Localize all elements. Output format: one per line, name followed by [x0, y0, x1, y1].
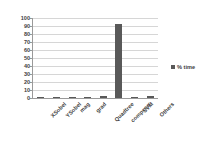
- bar: [37, 97, 44, 98]
- y-tick-label: 80: [24, 31, 30, 37]
- bar: [131, 97, 138, 98]
- bar: [115, 24, 122, 98]
- bar: [84, 97, 91, 98]
- y-tick-label: 40: [24, 63, 30, 69]
- y-tick-label: 90: [24, 23, 30, 29]
- y-tick-label: 0: [27, 95, 30, 101]
- y-tick-label: 30: [24, 71, 30, 77]
- legend-item-label: % time: [177, 64, 195, 70]
- bar: [147, 96, 154, 98]
- y-tick-label: 60: [24, 47, 30, 53]
- bar-series-pct-time: [33, 18, 158, 98]
- y-tick-label: 20: [24, 79, 30, 85]
- y-tick-label: 70: [24, 39, 30, 45]
- legend: % time: [171, 64, 195, 70]
- bar-chart: 0102030405060708090100 XSobelYSobelmaggr…: [0, 0, 217, 142]
- bar: [53, 97, 60, 98]
- x-tick-label: SVM: [141, 101, 154, 114]
- bar: [69, 97, 76, 98]
- y-tick-label: 50: [24, 55, 30, 61]
- y-tick-label: 100: [21, 15, 30, 21]
- x-tick-label: XSobel: [49, 101, 67, 119]
- bar: [100, 96, 107, 98]
- plot-area: 0102030405060708090100: [33, 18, 158, 98]
- square-marker: [171, 65, 175, 69]
- x-tick-label: grad: [94, 101, 107, 114]
- x-tick-label: Others: [158, 101, 175, 118]
- y-tick-label: 10: [24, 87, 30, 93]
- x-axis-labels: XSobelYSobelmaggradQuadtreecompcorrSVMOt…: [33, 99, 158, 142]
